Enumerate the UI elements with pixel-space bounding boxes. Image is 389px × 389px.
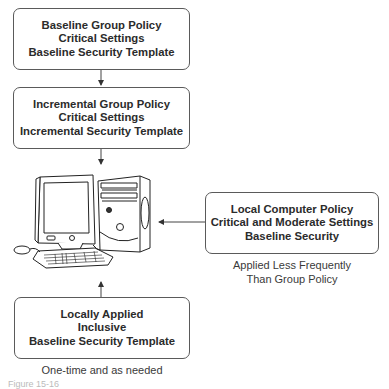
desktop-computer-icon — [14, 175, 150, 268]
